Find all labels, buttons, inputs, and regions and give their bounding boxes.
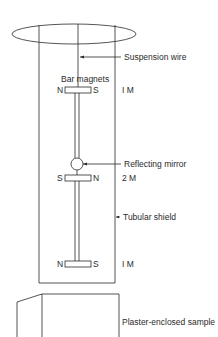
- reflecting-mirror: [71, 158, 83, 170]
- label-bar-magnets: Bar magnets: [61, 75, 109, 84]
- magnet-bottom: [65, 261, 91, 267]
- magnet-top-moment: I M: [122, 86, 134, 95]
- magnet-top: [65, 87, 91, 93]
- magnet-middle: [65, 175, 91, 181]
- magnet-bottom-moment: I M: [122, 260, 134, 269]
- magnet-middle-moment: 2 M: [122, 174, 136, 183]
- magnet-bottom-right-pole: S: [93, 260, 99, 269]
- tubular-shield: [39, 25, 115, 283]
- label-suspension-wire: Suspension wire: [124, 53, 186, 62]
- arrow-icon: [116, 216, 119, 218]
- magnet-middle-right-pole: N: [93, 174, 99, 183]
- magnet-bottom-left-pole: N: [57, 260, 63, 269]
- magnet-middle-left-pole: S: [57, 174, 63, 183]
- arrow-icon: [83, 163, 87, 166]
- arrow-icon: [80, 56, 84, 59]
- rod: [75, 93, 79, 261]
- magnet-top-left-pole: N: [57, 86, 63, 95]
- sample-box: [17, 294, 119, 337]
- label-sample: Plaster-enclosed sample: [122, 318, 215, 327]
- magnet-top-right-pole: S: [93, 86, 99, 95]
- label-reflecting-mirror: Reflecting mirror: [124, 160, 186, 169]
- label-tubular-shield: Tubular shield: [123, 213, 176, 222]
- top-ellipse: [12, 24, 136, 44]
